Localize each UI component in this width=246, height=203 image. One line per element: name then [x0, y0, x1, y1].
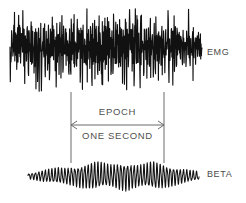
emg-trace-label: EMG [207, 47, 229, 57]
eeg-emg-figure: EMG BETA EPOCH ONE SECOND [0, 0, 246, 203]
beta-trace-label: BETA [207, 169, 232, 179]
epoch-annotation-label: EPOCH [71, 106, 164, 117]
one-second-annotation-label: ONE SECOND [71, 130, 164, 141]
